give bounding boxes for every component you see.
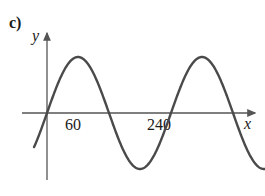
sine-graph-figure: c) y x 60 240 bbox=[0, 0, 265, 196]
plot-area bbox=[0, 0, 265, 196]
